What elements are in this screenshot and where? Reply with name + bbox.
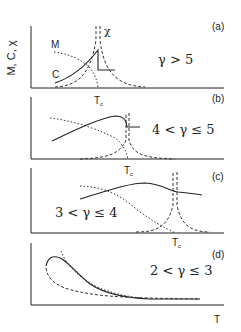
panel-d: (d) 2 < γ ≤ 3 T: [31, 243, 224, 325]
specific-heat-curve: [55, 50, 115, 83]
condition-label: 3 < γ ≤ 4: [55, 205, 118, 220]
condition-label: 4 < γ ≤ 5: [152, 122, 215, 137]
panel-a: M C χ (a) γ > 5 Tc: [31, 21, 224, 107]
susceptibility-curve: [55, 26, 145, 87]
panel-c: (c) 3 < γ ≤ 4 Tc: [31, 168, 224, 249]
magnetization-curve: [61, 251, 140, 298]
tc-label: Tc: [94, 95, 103, 107]
susceptibility-curve: [136, 172, 210, 232]
panel-tag: (a): [212, 21, 224, 32]
label-M: M: [51, 39, 59, 50]
tc-label: Tc: [172, 237, 181, 249]
panel-tag: (d): [212, 249, 224, 260]
specific-heat-curve: [52, 116, 140, 141]
y-axis-label: M, C, χ: [5, 40, 17, 75]
panel-tag: (b): [212, 93, 224, 104]
condition-label: γ > 5: [158, 52, 193, 67]
condition-label: 2 < γ ≤ 3: [150, 263, 213, 278]
x-axis-label: T: [214, 314, 220, 325]
label-chi: χ: [104, 25, 111, 38]
specific-heat-curve: [80, 183, 202, 199]
label-C: C: [52, 69, 59, 80]
panel-tag: (c): [212, 171, 224, 182]
panel-b: (b) 4 < γ ≤ 5 Tc: [31, 93, 224, 177]
tc-label: Tc: [124, 165, 133, 177]
phase-transition-diagram: M, C, χ M C χ (a) γ > 5 Tc (b) 4 < γ ≤ 5…: [0, 0, 241, 332]
